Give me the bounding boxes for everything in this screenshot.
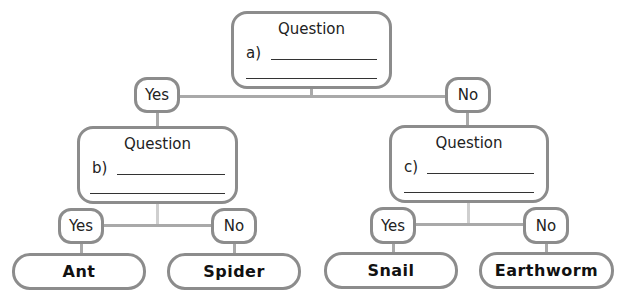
answer-blank-line-2[interactable] [404, 192, 534, 193]
answer-blank-line-2[interactable] [90, 193, 225, 194]
leaf-ant: Ant [12, 253, 146, 290]
question-label: b) [92, 159, 107, 177]
root-yes-stem [156, 111, 159, 127]
question-box-c: Question c) [389, 125, 549, 203]
answer-blank-line-1[interactable] [271, 59, 377, 60]
question-label: a) [246, 44, 261, 62]
answer-blank-line-2[interactable] [246, 78, 377, 79]
question-title: Question [80, 135, 235, 153]
question-box-a: Question a) [231, 11, 392, 89]
answer-blank-line-1[interactable] [427, 173, 534, 174]
right-yes-pill: Yes [370, 207, 416, 244]
left-branch [102, 224, 213, 227]
right-branch [414, 223, 525, 226]
right-no-pill: No [523, 207, 569, 244]
root-no-pill: No [445, 77, 491, 113]
question-label: c) [404, 158, 418, 176]
leaf-snail: Snail [324, 252, 458, 289]
left-yes-pill: Yes [58, 208, 104, 244]
left-no-pill: No [211, 208, 257, 244]
question-title: Question [234, 20, 389, 38]
leaf-spider: Spider [167, 253, 301, 290]
root-yes-pill: Yes [134, 77, 180, 113]
leaf-earthworm: Earthworm [479, 252, 614, 289]
answer-blank-line-1[interactable] [117, 174, 225, 175]
question-title: Question [392, 134, 546, 152]
right-stem [467, 202, 470, 225]
question-box-b: Question b) [77, 126, 238, 204]
root-branch [178, 95, 448, 98]
